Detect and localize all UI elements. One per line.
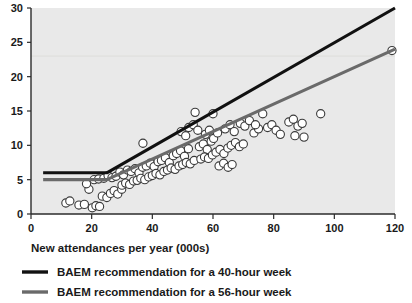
scatter-point	[298, 119, 306, 127]
y-tick-label: 25	[11, 36, 23, 48]
scatter-point	[80, 200, 88, 208]
y-tick-label: 15	[11, 105, 23, 117]
x-axis-ticks: 020406080100120	[28, 214, 404, 234]
x-tick-label: 0	[28, 222, 34, 234]
legend-label-40-hour: BAEM recommendation for a 40-hour week	[57, 266, 292, 278]
scatter-point	[276, 130, 284, 138]
legend-label-56-hour: BAEM recommendation for a 56-hour week	[57, 286, 292, 298]
y-tick-label: 0	[17, 208, 23, 220]
x-axis-title: New attendances per year (000s)	[31, 242, 210, 254]
legend: BAEM recommendation for a 40-hour week B…	[22, 266, 292, 298]
scatter-chart-figure: 051015202530 020406080100120 New attenda…	[0, 0, 412, 303]
y-tick-label: 5	[17, 174, 23, 186]
scatter-point	[228, 160, 236, 168]
scatter-point	[194, 126, 202, 134]
scatter-point	[230, 128, 238, 136]
scatter-point	[184, 145, 192, 153]
scatter-point	[300, 133, 308, 141]
x-tick-label: 120	[386, 222, 404, 234]
scatter-point	[239, 140, 247, 148]
x-tick-label: 100	[325, 222, 343, 234]
scatter-point	[191, 108, 199, 116]
scatter-point	[182, 132, 190, 140]
scatter-point	[95, 202, 103, 210]
x-tick-label: 80	[268, 222, 280, 234]
x-tick-label: 20	[86, 222, 98, 234]
scatter-point	[251, 121, 259, 129]
x-tick-label: 40	[146, 222, 158, 234]
y-axis-ticks: 051015202530	[11, 2, 31, 220]
scatter-point	[139, 139, 147, 147]
y-tick-label: 10	[11, 139, 23, 151]
scatter-point	[66, 197, 74, 205]
scatter-point	[317, 110, 325, 118]
x-tick-label: 60	[207, 222, 219, 234]
scatter-point	[291, 132, 299, 140]
y-tick-label: 20	[11, 71, 23, 83]
y-tick-label: 30	[11, 2, 23, 14]
